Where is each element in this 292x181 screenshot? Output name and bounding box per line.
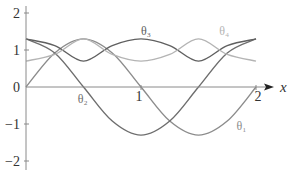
x-tick-label: 2 — [255, 89, 262, 104]
curve-labels-group: θ₁θ₂θ₃θ₄ — [78, 24, 247, 132]
y-tick-label: 2 — [13, 6, 20, 21]
line-chart: 210−1−212 θ₁θ₂θ₃θ₄ x — [0, 0, 292, 181]
x-tick-label: 1 — [136, 89, 143, 104]
y-tick-label: 0 — [13, 80, 20, 95]
curve-label-theta-4: θ₄ — [219, 24, 229, 38]
y-tick-label: 1 — [13, 43, 20, 58]
curve-label-theta-3: θ₃ — [141, 24, 151, 38]
curve-label-theta-1: θ₁ — [236, 119, 246, 133]
curve-label-theta-2: θ₂ — [78, 92, 88, 106]
x-axis-label: x — [279, 79, 287, 95]
y-tick-label: −2 — [5, 154, 20, 169]
y-tick-label: −1 — [5, 117, 20, 132]
